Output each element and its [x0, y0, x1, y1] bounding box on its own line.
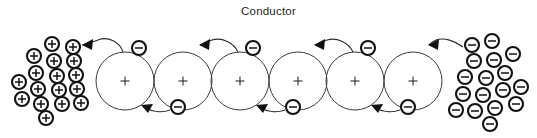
negative-charge-9: [456, 87, 470, 101]
positive-charge-cluster: [12, 37, 88, 125]
arrow-head-icon: [256, 104, 268, 113]
positive-charge-1: [45, 37, 59, 51]
negative-charge-15: [488, 101, 502, 115]
positive-charge-6: [29, 66, 43, 80]
conductor-diagram: Conductor: [0, 0, 537, 138]
hop-arrow-5: [314, 39, 353, 52]
conductor-atom-3: [211, 52, 269, 110]
positive-charge-10: [31, 82, 45, 96]
hop-arrow-3: [199, 39, 238, 52]
negative-charge-8: [498, 66, 512, 80]
negative-charge-12: [514, 80, 528, 94]
positive-charge-12: [70, 82, 84, 96]
electron-top-3: [361, 41, 375, 55]
free-electron-group: [132, 41, 415, 114]
conductor-atom-1: [96, 52, 154, 110]
electron-bottom-1: [171, 100, 185, 114]
negative-charge-13: [449, 103, 463, 117]
negative-charge-14: [468, 104, 482, 118]
arrow-head-icon: [314, 39, 325, 50]
hop-arrow-1: [82, 39, 123, 52]
arrow-head-icon: [141, 104, 153, 113]
negative-charge-5: [506, 47, 520, 61]
hop-arrow-6: [371, 104, 400, 113]
negative-charge-4: [487, 53, 501, 67]
negative-charge-17: [483, 117, 497, 131]
electron-top-1: [132, 41, 146, 55]
positive-charge-4: [47, 54, 61, 68]
diagram-canvas: [0, 0, 537, 138]
electron-top-2: [246, 41, 260, 55]
negative-charge-1: [465, 38, 479, 52]
hop-arrow-4: [256, 104, 285, 113]
electron-bottom-3: [401, 100, 415, 114]
arrow-head-icon: [199, 39, 210, 50]
positive-charge-2: [66, 40, 80, 54]
positive-charge-17: [39, 111, 53, 125]
negative-charge-7: [479, 71, 493, 85]
hop-arrow-2: [141, 104, 170, 113]
negative-charge-10: [476, 88, 490, 102]
arrow-head-icon: [371, 104, 383, 113]
negative-charge-6: [458, 70, 472, 84]
positive-charge-15: [55, 97, 69, 111]
electron-bottom-2: [286, 100, 300, 114]
conductor-atom-row: [96, 52, 442, 110]
positive-charge-5: [67, 54, 81, 68]
positive-charge-13: [15, 92, 29, 106]
positive-charge-14: [34, 97, 48, 111]
positive-charge-7: [50, 69, 64, 83]
positive-charge-9: [12, 75, 26, 89]
positive-charge-16: [74, 96, 88, 110]
negative-charge-16: [509, 97, 523, 111]
negative-charge-2: [485, 34, 499, 48]
conductor-atom-5: [326, 52, 384, 110]
negative-charge-cluster: [449, 34, 528, 131]
positive-charge-3: [27, 49, 41, 63]
positive-charge-8: [69, 68, 83, 82]
arrow-head-icon: [82, 39, 93, 50]
negative-charge-3: [467, 54, 481, 68]
positive-charge-11: [52, 83, 66, 97]
negative-charge-11: [496, 83, 510, 97]
hop-arrow-7: [428, 39, 463, 50]
